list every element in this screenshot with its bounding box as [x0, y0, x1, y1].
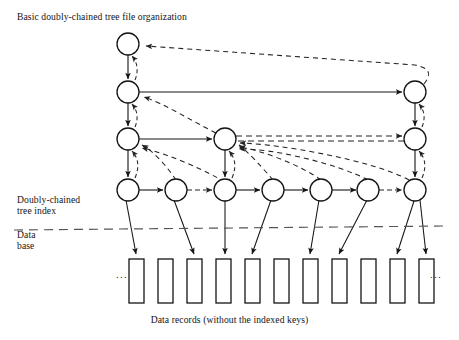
data-record[interactable]	[303, 259, 318, 303]
data-record[interactable]	[274, 259, 289, 303]
data-record[interactable]	[361, 259, 376, 303]
index-region-label: Doubly-chainedtree index	[17, 194, 80, 217]
data-record[interactable]	[419, 259, 434, 303]
link-fan-to-level3-left	[142, 145, 225, 182]
link-group-level3-chain	[139, 136, 404, 141]
data-record[interactable]	[158, 259, 173, 303]
records-ellipsis-right: ...	[430, 268, 442, 280]
tree-node-l3-1[interactable]	[214, 128, 236, 150]
data-record-group	[129, 259, 434, 303]
index-region-label-line2: tree index	[17, 205, 56, 216]
data-record[interactable]	[245, 259, 260, 303]
data-record[interactable]	[332, 259, 347, 303]
link-group-level3-level4	[128, 150, 425, 178]
tree-node-l4-1[interactable]	[165, 179, 187, 201]
data-region-label-line1: Data	[17, 229, 36, 240]
figure-caption: Data records (without the indexed keys)	[0, 314, 459, 325]
link-fan-to-level3-middle	[239, 143, 409, 180]
link-root-return	[146, 46, 429, 84]
data-record[interactable]	[129, 259, 144, 303]
node-group	[117, 33, 426, 201]
tree-node-l4-3[interactable]	[262, 179, 284, 201]
tree-node-l2-0[interactable]	[117, 81, 139, 103]
tree-node-l4-5[interactable]	[357, 179, 379, 201]
tree-node-l3-2[interactable]	[404, 128, 426, 150]
tree-node-l2-1[interactable]	[404, 81, 426, 103]
tree-node-l4-6[interactable]	[404, 179, 426, 201]
index-region-label-line1: Doubly-chained	[17, 194, 80, 205]
data-region-label-line2: base	[17, 240, 34, 251]
tree-node-l4-0[interactable]	[117, 179, 139, 201]
data-region-label: Database	[17, 229, 36, 252]
index-database-separator	[14, 226, 447, 230]
tree-node-root[interactable]	[117, 33, 139, 55]
tree-node-l4-4[interactable]	[310, 179, 332, 201]
tree-node-l4-2[interactable]	[214, 179, 236, 201]
data-record[interactable]	[216, 259, 231, 303]
tree-diagram	[0, 0, 459, 340]
link-group-level2-level3	[128, 97, 424, 133]
tree-node-l3-0[interactable]	[117, 128, 139, 150]
figure-canvas: Basic doubly-chained tree file organizat…	[0, 0, 459, 340]
link-group-level1-level2	[128, 55, 137, 80]
data-record[interactable]	[187, 259, 202, 303]
records-ellipsis-left: ...	[116, 268, 128, 280]
data-record[interactable]	[390, 259, 405, 303]
